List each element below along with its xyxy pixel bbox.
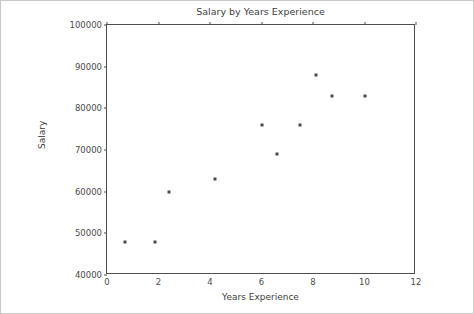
x-tick-label: 4: [207, 273, 212, 287]
x-tick-label: 8: [310, 273, 315, 287]
x-tick-label: 0: [104, 273, 109, 287]
y-tick-label: 80000: [75, 103, 107, 113]
data-point: [275, 153, 278, 156]
y-tick-label: 100000: [70, 20, 107, 30]
y-tick-label: 40000: [75, 270, 107, 280]
data-point: [124, 240, 127, 243]
x-tick-label: 6: [259, 273, 264, 287]
data-point: [153, 240, 156, 243]
data-point: [314, 74, 317, 77]
y-tick-label: 60000: [75, 187, 107, 197]
x-tick-label: 10: [359, 273, 370, 287]
data-point: [260, 124, 263, 127]
data-point: [331, 94, 334, 97]
y-tick-label: 90000: [75, 62, 107, 72]
plot-area: 400005000060000700008000090000100000 024…: [106, 24, 415, 274]
data-point: [214, 178, 217, 181]
y-tick-label: 70000: [75, 145, 107, 155]
data-point: [299, 124, 302, 127]
chart-title: Salary by Years Experience: [106, 6, 415, 17]
x-tick-label: 12: [411, 273, 422, 287]
data-point: [363, 94, 366, 97]
chart-figure: Salary by Years Experience Salary 400005…: [0, 0, 474, 314]
x-axis-label: Years Experience: [106, 292, 415, 302]
x-tick-mark: [416, 22, 417, 25]
y-tick-label: 50000: [75, 228, 107, 238]
data-point: [167, 190, 170, 193]
y-axis-label: Salary: [37, 121, 47, 149]
scatter-points-layer: [107, 25, 414, 273]
x-tick-label: 2: [156, 273, 161, 287]
